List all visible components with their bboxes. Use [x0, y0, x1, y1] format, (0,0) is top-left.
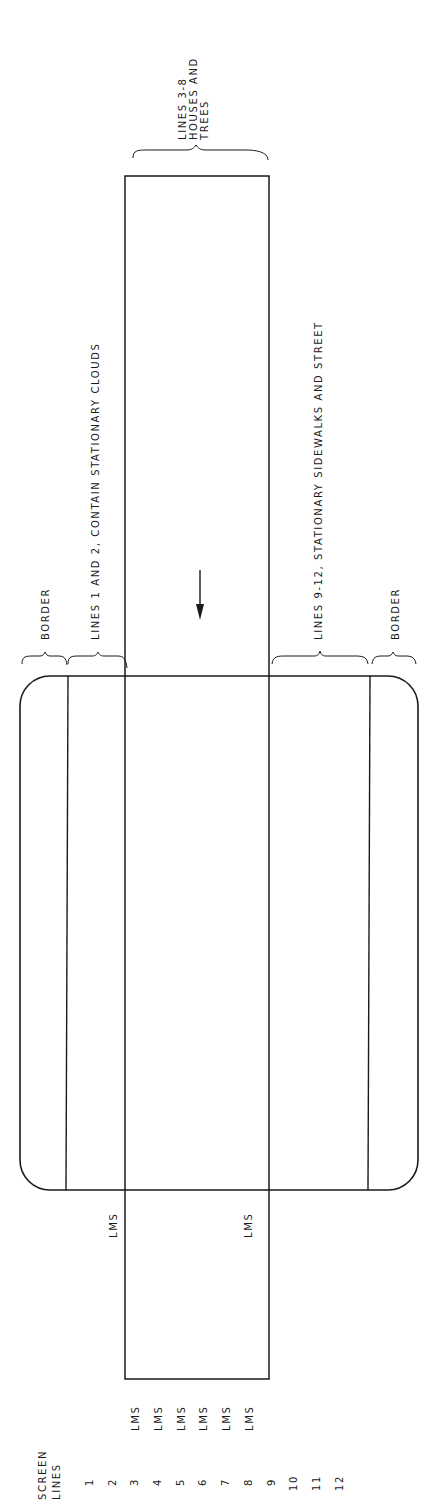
screen-lines-header: SCREEN LINES — [36, 1450, 64, 1500]
screen-line-8: 8 — [243, 1478, 254, 1486]
screen-line-5: 5 — [175, 1478, 186, 1486]
lms-line-8: LMS — [244, 1406, 255, 1431]
screen-line-11: 11 — [311, 1475, 322, 1491]
screen-line-2: 2 — [107, 1478, 118, 1486]
label-lines-3-8: LINES 3-8 HOUSES AND TREES — [177, 57, 210, 140]
lms-label-top-boundary: LMS — [108, 1213, 119, 1238]
label-lines-9-12: LINES 9-12, STATIONARY SIDEWALKS AND STR… — [313, 321, 324, 640]
brace-lines-1-2 — [68, 652, 127, 668]
tv-screen-outline — [20, 676, 418, 1190]
brace-border-left — [22, 652, 67, 665]
label-border-right: BORDER — [390, 588, 401, 640]
divider-border-right — [368, 676, 370, 1190]
screen-line-6: 6 — [197, 1478, 208, 1486]
divider-border-left — [66, 676, 68, 1190]
brace-group — [22, 145, 416, 668]
screen-line-7: 7 — [220, 1478, 231, 1486]
lms-line-5: LMS — [176, 1406, 187, 1431]
lms-line-6: LMS — [198, 1406, 209, 1431]
brace-border-right — [372, 652, 416, 664]
lms-line-4: LMS — [153, 1406, 164, 1431]
screen-line-1: 1 — [84, 1478, 95, 1486]
screen-line-12: 12 — [334, 1475, 345, 1491]
scrolling-playfield-strip — [125, 176, 269, 1379]
label-lines-1-2: LINES 1 AND 2, CONTAIN STATIONARY CLOUDS — [90, 343, 101, 640]
lms-line-7: LMS — [221, 1406, 232, 1431]
arrow-down-icon — [196, 570, 204, 620]
lms-label-bottom-boundary: LMS — [243, 1213, 254, 1238]
label-border-left: BORDER — [40, 588, 51, 640]
brace-lines-3-8 — [133, 145, 268, 160]
screen-line-9: 9 — [266, 1478, 277, 1486]
lms-line-3: LMS — [130, 1406, 141, 1431]
screen-line-10: 10 — [288, 1475, 299, 1491]
screen-line-4: 4 — [152, 1478, 163, 1486]
diagram-canvas — [0, 0, 440, 1510]
brace-lines-9-12 — [272, 651, 368, 664]
screen-line-3: 3 — [129, 1478, 140, 1486]
